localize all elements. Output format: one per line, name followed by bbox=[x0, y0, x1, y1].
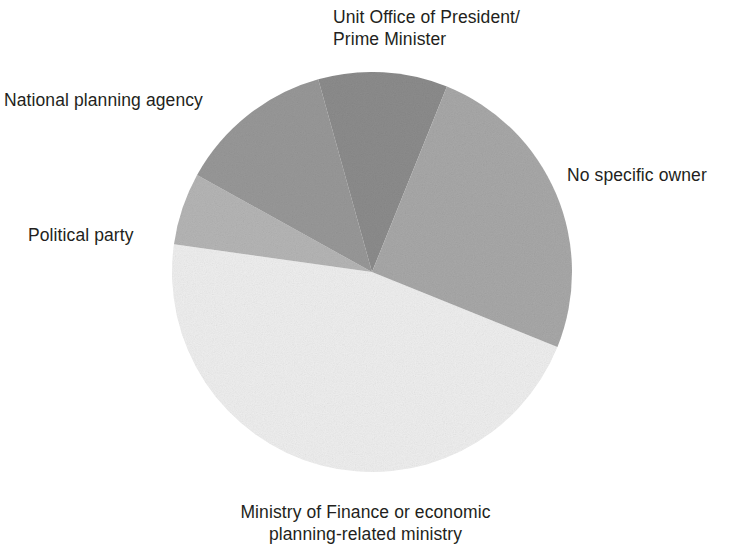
pie-label-political-party: Political party bbox=[28, 224, 134, 246]
pie-chart: Unit Office of President/ Prime Minister… bbox=[0, 0, 731, 552]
pie-label-national-planning-agency: National planning agency bbox=[4, 89, 203, 111]
pie-chart-svg bbox=[0, 0, 731, 552]
pie-label-unit-office: Unit Office of President/ Prime Minister bbox=[333, 6, 520, 51]
pie-label-no-specific-owner: No specific owner bbox=[567, 164, 707, 186]
pie-label-ministry-finance: Ministry of Finance or economic planning… bbox=[0, 501, 731, 546]
